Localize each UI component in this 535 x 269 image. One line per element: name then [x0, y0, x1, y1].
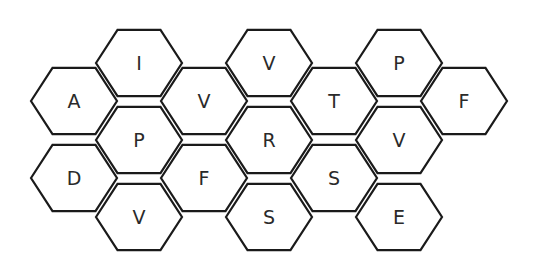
hex-letter: D — [67, 167, 82, 189]
hex-letter: P — [133, 129, 144, 151]
hex-cell[interactable]: I — [96, 30, 182, 96]
hex-cell[interactable]: S — [291, 145, 377, 211]
hex-letter: V — [198, 90, 211, 112]
hex-letter: F — [199, 167, 210, 189]
hex-letter: E — [393, 206, 405, 228]
hex-cell[interactable]: V — [161, 68, 247, 134]
hex-letter: R — [262, 129, 275, 151]
hex-cell[interactable]: V — [356, 107, 442, 173]
hex-cell[interactable]: D — [31, 145, 117, 211]
hex-cell[interactable]: V — [96, 184, 182, 250]
hex-letter: P — [393, 52, 404, 74]
hex-cell[interactable]: F — [161, 145, 247, 211]
hex-letter: S — [328, 167, 340, 189]
hex-cell[interactable]: T — [291, 68, 377, 134]
hex-letter: V — [263, 52, 276, 74]
hex-letter: T — [327, 90, 340, 112]
hex-cell[interactable]: V — [226, 30, 312, 96]
hex-cell[interactable]: F — [421, 68, 507, 134]
hex-letter: I — [136, 52, 142, 74]
hex-letter: S — [263, 206, 275, 228]
hex-cell[interactable]: P — [356, 30, 442, 96]
hex-cell[interactable]: S — [226, 184, 312, 250]
hex-cell[interactable]: R — [226, 107, 312, 173]
hex-cell[interactable]: E — [356, 184, 442, 250]
hex-letter: F — [459, 90, 470, 112]
hex-cell[interactable]: P — [96, 107, 182, 173]
hex-letter: V — [393, 129, 406, 151]
hex-cell[interactable]: A — [31, 68, 117, 134]
hex-letter: A — [68, 90, 81, 112]
hex-letter-grid: ADIPVVFVRSTSPVEF — [0, 0, 535, 269]
hex-letter: V — [133, 206, 146, 228]
